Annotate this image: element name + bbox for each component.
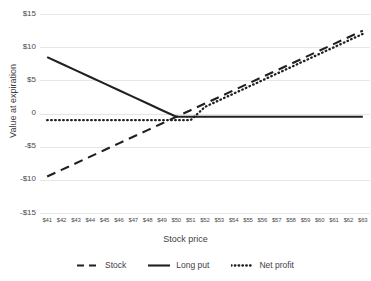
x-axis-tick: $45	[97, 217, 111, 230]
y-axis-tick: $10	[2, 42, 36, 51]
x-axis-tick: $43	[69, 217, 83, 230]
series-line-long-put	[47, 57, 363, 117]
legend-label: Long put	[176, 260, 209, 270]
series-line-stock	[47, 31, 363, 177]
series-lines	[40, 14, 370, 213]
x-axis-tick: $55	[241, 217, 255, 230]
x-axis-tick: $52	[198, 217, 212, 230]
legend-label: Stock	[105, 260, 126, 270]
x-axis-tick: $63	[356, 217, 370, 230]
payoff-chart: Value at expiration $15$10$50-$5-$10-$15…	[0, 0, 371, 281]
x-axis-tick-labels: $41$42$43$44$45$46$47$48$49$50$51$52$53$…	[40, 217, 370, 230]
plot-area	[40, 14, 370, 213]
x-axis-tick: $47	[126, 217, 140, 230]
y-axis-tick: -$5	[2, 141, 36, 150]
chart-legend: StockLong putNet profit	[0, 260, 371, 270]
legend-swatch-dashed-icon	[77, 261, 99, 270]
x-axis-tick: $56	[255, 217, 269, 230]
legend-swatch-dotted-icon	[231, 261, 253, 270]
x-axis-tick: $49	[155, 217, 169, 230]
x-axis-tick: $60	[313, 217, 327, 230]
y-axis-tick: 0	[2, 108, 36, 117]
x-axis-tick: $61	[327, 217, 341, 230]
x-axis-tick: $58	[284, 217, 298, 230]
y-axis-tick: $5	[2, 75, 36, 84]
legend-item[interactable]: Stock	[77, 260, 126, 270]
legend-item[interactable]: Net profit	[231, 260, 294, 270]
x-axis-tick: $57	[270, 217, 284, 230]
x-axis-tick: $48	[140, 217, 154, 230]
x-axis-tick: $50	[169, 217, 183, 230]
y-axis-tick: -$15	[2, 208, 36, 217]
legend-swatch-solid-icon	[148, 261, 170, 270]
series-line-net-profit	[47, 34, 363, 120]
x-axis-tick: $44	[83, 217, 97, 230]
x-axis-tick: $41	[40, 217, 54, 230]
x-axis-tick: $62	[341, 217, 355, 230]
x-axis-tick: $46	[112, 217, 126, 230]
y-axis-tick: -$10	[2, 174, 36, 183]
x-axis-title: Stock price	[0, 234, 371, 244]
x-axis-tick: $54	[226, 217, 240, 230]
gridline	[40, 213, 370, 214]
legend-label: Net profit	[259, 260, 294, 270]
x-axis-tick: $53	[212, 217, 226, 230]
y-axis-tick: $15	[2, 9, 36, 18]
x-axis-tick: $51	[183, 217, 197, 230]
legend-item[interactable]: Long put	[148, 260, 209, 270]
x-axis-tick: $59	[298, 217, 312, 230]
x-axis-tick: $42	[54, 217, 68, 230]
